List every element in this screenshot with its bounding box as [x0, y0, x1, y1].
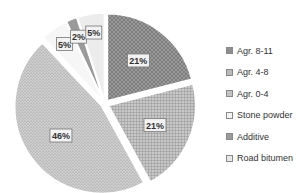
svg-text:21%: 21%	[129, 56, 147, 66]
slice-label: 21%	[127, 54, 149, 67]
svg-text:21%: 21%	[146, 121, 164, 131]
slice-label: 2%	[71, 30, 87, 43]
legend-item-stone-powder: Stone powder	[226, 105, 293, 127]
legend-label: Agr. 0-4	[237, 89, 269, 99]
slice-label: 46%	[50, 129, 72, 142]
legend-label: Road bitumen	[237, 153, 293, 163]
legend-item-additive: Additive	[226, 126, 293, 148]
legend-swatch-icon	[226, 112, 233, 119]
legend-swatch-icon	[226, 155, 233, 162]
legend-swatch-icon	[226, 69, 233, 76]
legend-swatch-icon	[226, 47, 233, 54]
chart-legend: Agr. 8-11 Agr. 4-8 Agr. 0-4 Stone powder…	[226, 40, 293, 169]
legend-label: Agr. 8-11	[237, 46, 273, 56]
legend-swatch-icon	[226, 90, 233, 97]
legend-swatch-icon	[226, 133, 233, 140]
legend-item-road-bitumen: Road bitumen	[226, 148, 293, 170]
legend-item-agr-0-4: Agr. 0-4	[226, 83, 293, 105]
svg-text:2%: 2%	[72, 32, 85, 42]
legend-item-agr-4-8: Agr. 4-8	[226, 62, 293, 84]
legend-label: Additive	[237, 132, 269, 142]
pie-chart: 21%21%46%5%2%5%	[0, 0, 210, 193]
slice-label: 21%	[144, 119, 166, 132]
svg-text:5%: 5%	[87, 28, 100, 38]
legend-item-agr-8-11: Agr. 8-11	[226, 40, 293, 62]
legend-label: Stone powder	[237, 110, 293, 120]
slice-label: 5%	[86, 26, 102, 39]
legend-label: Agr. 4-8	[237, 67, 269, 77]
svg-text:5%: 5%	[58, 40, 71, 50]
svg-text:46%: 46%	[52, 131, 70, 141]
